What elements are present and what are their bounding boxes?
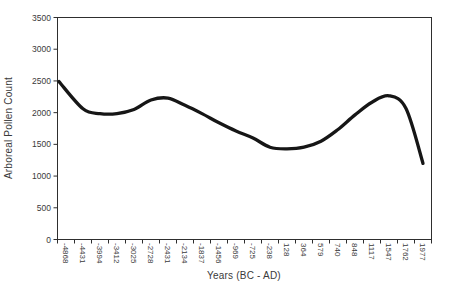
x-tick-label: -969 bbox=[231, 243, 240, 260]
x-tick-label: -3025 bbox=[129, 243, 138, 264]
y-tick-label: 1500 bbox=[32, 139, 51, 149]
y-tick-label: 0 bbox=[46, 235, 51, 245]
x-tick-label: 1977 bbox=[418, 243, 427, 261]
x-tick-label: 579 bbox=[316, 243, 325, 257]
line-chart-plot: 0500100015002000250030003500-4868-4431-3… bbox=[0, 0, 452, 298]
x-tick-label: 128 bbox=[282, 243, 291, 257]
x-tick-label: 1117 bbox=[367, 243, 376, 260]
x-tick-label: 1762 bbox=[401, 243, 410, 261]
x-tick-label: 848 bbox=[350, 243, 359, 257]
y-tick-label: 3500 bbox=[32, 13, 51, 23]
y-tick-label: 500 bbox=[37, 203, 51, 213]
x-tick-label: -3994 bbox=[95, 243, 104, 264]
x-tick-label: -4868 bbox=[61, 243, 70, 264]
x-tick-label: -2134 bbox=[180, 243, 189, 264]
y-tick-label: 1000 bbox=[32, 171, 51, 181]
x-axis-title: Years (BC - AD) bbox=[57, 270, 431, 281]
pollen-chart-figure: 0500100015002000250030003500-4868-4431-3… bbox=[0, 0, 452, 298]
y-tick-label: 2000 bbox=[32, 108, 51, 118]
x-tick-label: -4431 bbox=[78, 243, 87, 264]
pollen-count-line bbox=[59, 82, 423, 164]
x-tick-label: -1837 bbox=[197, 243, 206, 264]
x-tick-label: -725 bbox=[248, 243, 257, 260]
y-axis-title: Arboreal Pollen Count bbox=[2, 58, 16, 198]
x-tick-label: -2728 bbox=[146, 243, 155, 264]
x-tick-label: -3412 bbox=[112, 243, 121, 264]
x-tick-label: 364 bbox=[299, 243, 308, 257]
plot-border bbox=[58, 18, 432, 240]
x-tick-label: -238 bbox=[265, 243, 274, 260]
y-tick-label: 3000 bbox=[32, 44, 51, 54]
y-tick-label: 2500 bbox=[32, 76, 51, 86]
x-tick-label: 740 bbox=[333, 243, 342, 257]
x-tick-label: -2431 bbox=[163, 243, 172, 264]
x-tick-label: 1547 bbox=[384, 243, 393, 261]
x-tick-label: -1456 bbox=[214, 243, 223, 264]
